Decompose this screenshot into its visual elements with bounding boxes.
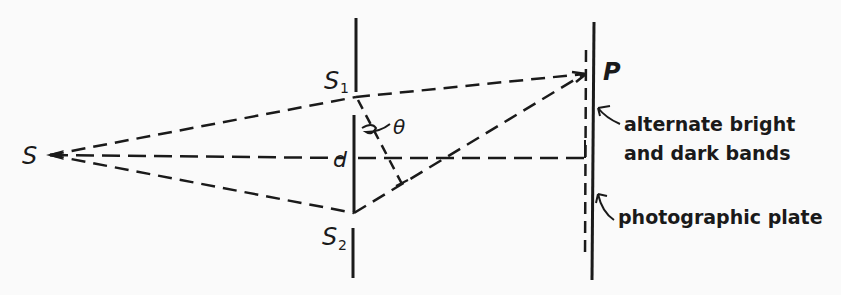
label-slit1-sub: 1 — [340, 80, 349, 96]
double-slit-diagram: S S 1 S 2 d θ P alternate bright and dar… — [0, 0, 841, 295]
label-source: S — [22, 142, 37, 170]
ray-s-to-s1 — [50, 97, 356, 155]
label-point-p: P — [603, 58, 621, 86]
ray-s-to-s2 — [50, 155, 354, 213]
bands-leader — [598, 106, 620, 124]
screen-line — [592, 22, 594, 280]
label-slit1: S — [324, 67, 339, 95]
plate-leader — [596, 194, 614, 220]
label-slit2: S — [322, 223, 337, 251]
annotation-plate: photographic plate — [618, 206, 823, 228]
perpendicular-line — [358, 100, 402, 184]
label-slit2-sub: 2 — [338, 237, 347, 253]
annotation-bands-line1: alternate bright — [624, 113, 795, 135]
label-separation-d: d — [333, 147, 348, 172]
ray-s-axis — [50, 155, 345, 158]
annotation-bands-line2: and dark bands — [624, 142, 790, 164]
label-theta: θ — [393, 115, 405, 139]
arrowhead-p-icon — [572, 72, 586, 82]
